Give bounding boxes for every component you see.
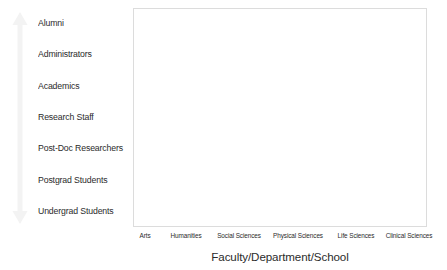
x-axis-category-labels: Arts Humanities Social Sciences Physical… xyxy=(133,231,427,243)
double-headed-vertical-arrow-icon xyxy=(11,12,29,224)
figure-root: Alumni Administrators Academics Research… xyxy=(0,0,447,270)
x-axis-label-clinical-sciences: Clinical Sciences xyxy=(386,231,433,241)
y-axis-label-alumni: Alumni xyxy=(38,18,64,29)
y-axis-label-research-staff: Research Staff xyxy=(38,112,94,123)
y-axis-label-post-doc-researchers: Post-Doc Researchers xyxy=(38,143,123,154)
x-axis-label-humanities: Humanities xyxy=(170,231,201,241)
plot-canvas xyxy=(134,9,426,226)
x-axis-title: Faculty/Department/School xyxy=(133,249,427,264)
x-axis-label-social-sciences: Social Sciences xyxy=(217,231,261,241)
x-axis-label-physical-sciences: Physical Sciences xyxy=(273,231,323,241)
plot-area xyxy=(133,8,427,227)
y-axis-label-postgrad-students: Postgrad Students xyxy=(38,175,107,186)
y-axis-label-academics: Academics xyxy=(38,81,79,92)
y-axis-label-undergrad-students: Undergrad Students xyxy=(38,206,114,217)
y-axis-category-labels: Alumni Administrators Academics Research… xyxy=(38,8,130,227)
x-axis-label-life-sciences: Life Sciences xyxy=(338,231,375,241)
y-axis-label-administrators: Administrators xyxy=(38,49,92,60)
x-axis-label-arts: Arts xyxy=(139,231,150,241)
